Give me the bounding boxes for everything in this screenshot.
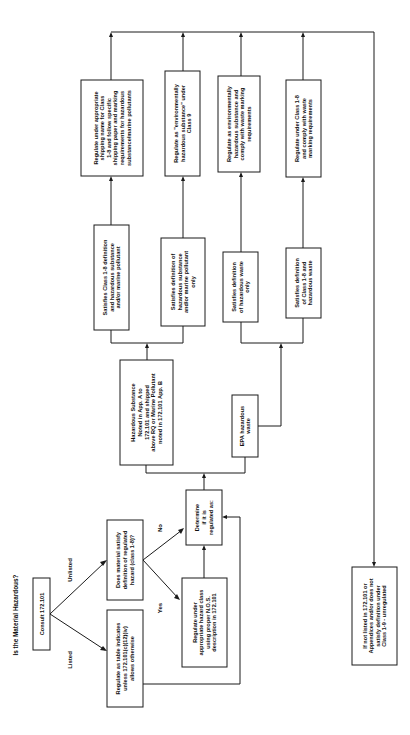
node-text-line: hazardous waste <box>307 260 313 305</box>
node-text-line: comply with waste marking <box>239 87 245 160</box>
node-text-line: Satisfies definition <box>294 258 300 308</box>
arrowhead-icon <box>109 32 113 37</box>
title: Is the Material Hazardous? <box>12 574 19 655</box>
listed-label: Listed <box>67 651 73 669</box>
arrowhead-icon <box>239 32 243 37</box>
node-text-line: Regulate as table indicates <box>115 623 121 695</box>
node-text-line: substance/marine pollutants <box>126 90 132 166</box>
arrow-listed <box>50 614 105 650</box>
arrowhead-icon <box>202 545 206 550</box>
node-text-line: Appendices and/or does not <box>368 578 374 653</box>
unlisted-label: Unlisted <box>67 558 73 582</box>
node-text-line: Hazardous Substance <box>130 383 136 441</box>
arrowhead-icon <box>202 473 206 478</box>
node-text-line: Does material satisfy <box>115 531 121 588</box>
node-text-line: of Class 1-8 and <box>301 261 307 304</box>
node-text-line: hazardous substance" under <box>180 84 186 162</box>
node-text-line: regulated as: <box>208 500 214 535</box>
node-text-line: satisfy definition under <box>375 584 381 646</box>
node-text-line: unless 172.101(c)(12)(iv) <box>122 626 128 691</box>
node-text-line: hazard (class 1-8)? <box>129 534 135 585</box>
arrow-no <box>143 530 182 560</box>
node-text-line: Class 9 <box>186 114 192 134</box>
node-text-line: of hazardous waste <box>238 261 244 313</box>
node-text-line: hazardous substance and <box>233 89 239 158</box>
sat-class18-hs-text: Satisfies Class 1-8 definitionand hazard… <box>102 239 121 315</box>
consult-text: Consult 172.101 <box>39 593 45 636</box>
node-text-line: description in 172.101 <box>211 593 217 651</box>
epa-line <box>258 346 281 426</box>
node-text-line: hazardous substance <box>177 253 183 310</box>
node-text-line: Class 1-9 - unregulated <box>381 585 387 647</box>
arrowhead-icon <box>239 172 243 177</box>
arrowhead-icon <box>372 562 376 567</box>
arrowhead-icon <box>279 343 283 348</box>
reg-class18-waste-text: Regulate under Class 1-8and comply with … <box>294 95 313 162</box>
arrowhead-icon <box>100 646 107 651</box>
node-text-line: Regulate under Class 1-8 <box>294 95 300 162</box>
node-text-line: appropriate hazard class <box>198 590 204 656</box>
node-text-line: requirements for hazardous <box>119 91 125 165</box>
node-text-line: 172.101 and shipped <box>144 385 150 440</box>
node-text-line: definition of regulated <box>122 530 128 589</box>
node-text-line: 1-8 and follow specific <box>106 98 112 158</box>
node-text-line: Regulate under appropriate <box>93 91 99 164</box>
node-text-line: allows otherwise <box>129 636 135 681</box>
node-text-line: waste <box>245 418 251 435</box>
arrowhead-icon <box>301 177 305 182</box>
yes-label: Yes <box>157 602 163 613</box>
svg-text:Is the Material Hazardous?: Is the Material Hazardous? <box>12 574 19 655</box>
node-text-line: above RQ or Marine Pollutant <box>150 373 156 451</box>
node-text-line: Determine <box>194 504 200 531</box>
node-text-line: requirements <box>246 106 252 141</box>
arrow-yes <box>143 560 178 598</box>
arrowhead-icon <box>178 528 184 534</box>
node-text-line: and/or marine pollutant <box>115 246 121 308</box>
node-text-line: only <box>244 280 250 292</box>
arrowhead-icon <box>109 176 113 181</box>
arrow-unlisted <box>50 562 105 614</box>
node-text-line: Regulate as "environmentally <box>173 83 179 162</box>
arrowhead-icon <box>181 32 185 37</box>
node-text-line: Satisfies definition of <box>170 254 176 311</box>
node-text-line: EPA hazardous <box>239 406 245 446</box>
node-text-line: Regulate as environmentally <box>226 85 232 162</box>
flowchart: Is the Material Hazardous? Listed Unlist… <box>0 0 410 735</box>
node-text-line: shipping name for Class <box>99 96 105 161</box>
not-listed-text: If not listed in 172.101 orAppendices an… <box>362 578 388 653</box>
node-text-line: Satisfies Class 1-8 definition <box>102 239 108 315</box>
arrowhead-icon <box>222 515 227 519</box>
arrowhead-icon <box>181 176 185 181</box>
arrowhead-icon <box>301 32 305 37</box>
does-material-text: Does material satisfydefinition of regul… <box>115 530 134 589</box>
node-text-line: Regulate under <box>192 601 198 643</box>
node-text-line: and/or marine pollutant <box>183 251 189 313</box>
node-text-line: using proper N.O.S. <box>205 596 211 649</box>
no-label: No <box>157 524 163 532</box>
node-text-line: Satisfies definition <box>231 262 237 312</box>
node-text-line: only <box>190 275 196 287</box>
node-text-line: Noted in App. A to <box>137 388 143 437</box>
node-text-line: if it is <box>201 510 207 525</box>
reg-shipping-text: Regulate under appropriateshipping name … <box>93 90 132 166</box>
node-text-line: and hazardous substance <box>109 243 115 312</box>
node-text-line: Consult 172.101 <box>39 593 45 636</box>
arrowhead-icon <box>145 343 149 348</box>
sat-class18-hw-text: Satisfies definitionof Class 1-8 andhaza… <box>294 258 313 308</box>
node-text-line: noted in 172.101 App. B <box>157 381 163 444</box>
node-text-line: If not listed in 172.101 or <box>362 583 368 649</box>
node-text-line: and comply with waste <box>301 98 307 159</box>
node-text-line: marking requirements <box>307 99 313 158</box>
node-text-line: shipping paper and marking <box>112 90 118 165</box>
